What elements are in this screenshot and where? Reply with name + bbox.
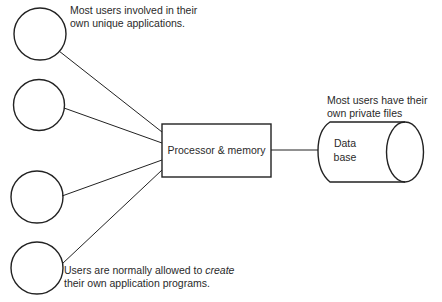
annotation-bottom-users: Users are normally allowed to create the… <box>64 264 234 290</box>
user-circle-2 <box>14 80 65 131</box>
annotation-database-line1: Most users have their <box>327 94 427 107</box>
connector-user-2 <box>64 108 162 143</box>
annotation-bottom-users-line1: Users are normally allowed to create <box>64 264 234 277</box>
annotation-top-users-line1: Most users involved in their <box>70 4 197 17</box>
user-circle-1 <box>14 8 66 60</box>
connector-user-3 <box>62 160 162 196</box>
processor-label: Processor & memory <box>162 144 271 156</box>
database-label-line2: base <box>320 150 370 164</box>
database-label: Data base <box>320 136 370 164</box>
annotation-database-line2: own private files <box>327 107 427 120</box>
user-circle-3 <box>11 171 63 223</box>
annotation-bottom-users-line2: their own application programs. <box>64 277 234 290</box>
annotation-bottom-prefix: Users are normally allowed to <box>64 264 205 276</box>
annotation-bottom-emphasis: create <box>205 264 234 276</box>
user-circle-4 <box>11 242 63 294</box>
annotation-database: Most users have their own private files <box>327 94 427 120</box>
database-label-line1: Data <box>320 136 370 150</box>
database-cylinder-end <box>387 122 424 182</box>
connector-user-4 <box>62 170 162 264</box>
connector-user-1 <box>59 51 162 132</box>
annotation-top-users-line2: own unique applications. <box>70 17 197 30</box>
annotation-top-users: Most users involved in their own unique … <box>70 4 197 30</box>
